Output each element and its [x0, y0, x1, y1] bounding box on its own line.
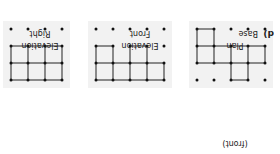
front-elevation-dot [163, 62, 166, 65]
front-elevation-dot [95, 28, 98, 31]
base-plan-front-annotation: (front) [205, 138, 265, 148]
base-plan-dot [247, 79, 250, 82]
front-elevation-dot [95, 79, 98, 82]
base-plan-dot [196, 45, 199, 48]
front-elevation-dot [129, 79, 132, 82]
base-plan-dot [213, 45, 216, 48]
base-plan-dot [264, 79, 267, 82]
base-plan-dot [247, 62, 250, 65]
base-plan-dot [230, 79, 233, 82]
base-plan-dot [264, 45, 267, 48]
right-elevation-dot [27, 62, 30, 65]
right-elevation-dot [10, 62, 13, 65]
front-elevation-dot [95, 45, 98, 48]
base-plan-dot [213, 79, 216, 82]
right-elevation-title-line1: Right [10, 28, 70, 38]
right-elevation-title-line2: Elevation [10, 40, 70, 50]
front-elevation-dot [146, 62, 149, 65]
right-elevation-dot [44, 79, 47, 82]
dot-grid-diagram [0, 0, 280, 154]
front-elevation-title-line1: Front [110, 28, 170, 38]
front-elevation-dot [112, 62, 115, 65]
base-plan-dot [196, 79, 199, 82]
front-elevation-dot [146, 79, 149, 82]
right-elevation-dot [27, 79, 30, 82]
front-elevation-dot [163, 79, 166, 82]
base-plan-dot [230, 62, 233, 65]
front-elevation-dot [112, 79, 115, 82]
figure-stage: d) Base Plan (front) Front Elevation Rig… [0, 0, 280, 154]
front-elevation-dot [95, 62, 98, 65]
right-elevation-dot [61, 79, 64, 82]
right-elevation-dot [10, 79, 13, 82]
right-elevation-dot [61, 62, 64, 65]
front-elevation-dot [129, 62, 132, 65]
front-elevation-title-line2: Elevation [110, 40, 170, 50]
base-plan-dot [196, 62, 199, 65]
right-elevation-dot [44, 62, 47, 65]
part-label: d) [263, 29, 274, 39]
base-plan-dot [213, 62, 216, 65]
base-plan-dot [264, 62, 267, 65]
base-plan-title-line1: Base [208, 28, 258, 38]
base-plan-dot [196, 28, 199, 31]
base-plan-title-line2: Plan [220, 40, 250, 50]
